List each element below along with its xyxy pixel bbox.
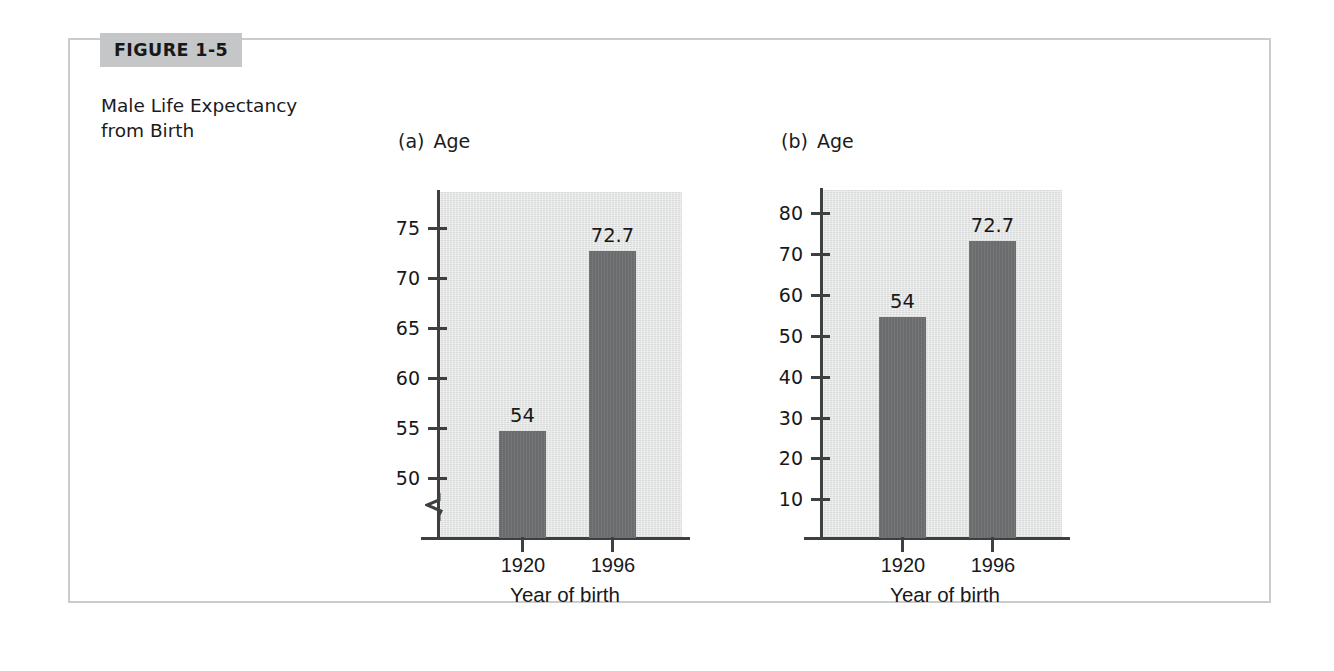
chart-a-ytick-label-65: 65 xyxy=(374,317,420,339)
chart-a-ytick-label-55: 55 xyxy=(374,417,420,439)
chart-a-ytick-label-50: 50 xyxy=(374,467,420,489)
chart-b-heading: (b)Age xyxy=(781,130,854,152)
chart-a-bar-1996 xyxy=(589,251,636,538)
chart-b-bar-value-1996: 72.7 xyxy=(952,214,1033,237)
chart-a-axis-title-y: Age xyxy=(433,130,470,152)
chart-b-ytick-label-30: 30 xyxy=(757,407,803,429)
chart-b-axis-title-y: Age xyxy=(817,130,854,152)
chart-b-ytick-label-20: 20 xyxy=(757,447,803,469)
chart-b-plot-area xyxy=(823,190,1062,538)
chart-b-xtick-1996 xyxy=(991,537,994,552)
chart-b-ytick-60 xyxy=(811,294,830,297)
chart-b-ytick-50 xyxy=(811,335,830,338)
chart-b-ytick-80 xyxy=(811,212,830,215)
figure-caption-line-2: from Birth xyxy=(101,118,381,143)
chart-a-xtick-label-1920: 1920 xyxy=(477,554,569,577)
chart-a-ytick-75 xyxy=(428,227,447,230)
figure-number-tab: FIGURE 1-5 xyxy=(100,33,242,67)
chart-a-xtick-1920 xyxy=(521,537,524,552)
chart-b-ytick-label-80: 80 xyxy=(757,202,803,224)
chart-a-bar-value-1920: 54 xyxy=(482,404,563,427)
chart-a-xtick-label-1996: 1996 xyxy=(567,554,659,577)
chart-b-ytick-10 xyxy=(811,498,830,501)
chart-a-ytick-65 xyxy=(428,327,447,330)
chart-a-xtick-1996 xyxy=(611,537,614,552)
chart-b-bar-1996 xyxy=(969,241,1016,538)
chart-a-bar-value-1996: 72.7 xyxy=(572,224,653,247)
chart-a-heading: (a)Age xyxy=(398,130,470,152)
chart-b-ytick-label-60: 60 xyxy=(757,284,803,306)
chart-a-ytick-55 xyxy=(428,427,447,430)
chart-b-bar-value-1920: 54 xyxy=(862,290,943,313)
chart-a-axis-break-icon xyxy=(425,492,453,522)
chart-b-ytick-30 xyxy=(811,417,830,420)
chart-a-ytick-50 xyxy=(428,477,447,480)
chart-b-ytick-40 xyxy=(811,376,830,379)
chart-a-ytick-label-70: 70 xyxy=(374,267,420,289)
chart-b-xtick-1920 xyxy=(901,537,904,552)
chart-b-ytick-label-10: 10 xyxy=(757,488,803,510)
chart-a-ytick-label-60: 60 xyxy=(374,367,420,389)
chart-b-xtick-label-1920: 1920 xyxy=(857,554,949,577)
chart-b-x-axis-title: Year of birth xyxy=(820,583,1070,607)
chart-b-y-axis xyxy=(820,188,823,540)
chart-b-xtick-label-1996: 1996 xyxy=(947,554,1039,577)
chart-b-ytick-label-50: 50 xyxy=(757,325,803,347)
chart-a-x-axis-title: Year of birth xyxy=(440,583,690,607)
chart-b-bar-1920 xyxy=(879,317,926,538)
chart-a-ytick-label-75: 75 xyxy=(374,217,420,239)
figure-caption-line-1: Male Life Expectancy xyxy=(101,93,381,118)
chart-b-part-letter: (b) xyxy=(781,130,808,152)
chart-a-part-letter: (a) xyxy=(398,130,424,152)
chart-a-ytick-60 xyxy=(428,377,447,380)
figure-caption: Male Life Expectancy from Birth xyxy=(101,93,381,143)
chart-b-ytick-label-70: 70 xyxy=(757,243,803,265)
chart-b-ytick-70 xyxy=(811,253,830,256)
chart-b-x-axis xyxy=(804,537,1070,540)
chart-a-bar-1920 xyxy=(499,431,546,538)
chart-a-y-axis xyxy=(437,190,440,540)
chart-a-ytick-70 xyxy=(428,277,447,280)
chart-b-ytick-20 xyxy=(811,457,830,460)
figure-number-label: FIGURE 1-5 xyxy=(114,40,228,60)
chart-b-ytick-label-40: 40 xyxy=(757,366,803,388)
chart-a-x-axis xyxy=(421,537,690,540)
